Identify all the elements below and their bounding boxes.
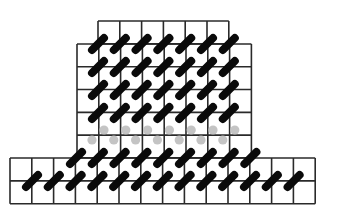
dimer-marker bbox=[266, 175, 278, 187]
dimer-marker bbox=[92, 61, 104, 73]
dimer-marker bbox=[179, 61, 191, 73]
dimer-marker bbox=[201, 38, 213, 50]
dimer-marker bbox=[114, 152, 126, 164]
dimer-marker bbox=[157, 152, 169, 164]
dimer-marker bbox=[114, 84, 126, 96]
dimer-marker bbox=[136, 38, 148, 50]
dimer-marker bbox=[201, 107, 213, 119]
dimer-marker bbox=[157, 61, 169, 73]
faded-dimer-dot bbox=[165, 125, 174, 134]
faded-dimer-dot bbox=[153, 135, 162, 144]
dimer-marker bbox=[179, 175, 191, 187]
dimer-marker bbox=[92, 107, 104, 119]
faded-dimer-dot bbox=[99, 125, 108, 134]
faded-dimer-dot bbox=[121, 125, 130, 134]
dimer-marker bbox=[179, 38, 191, 50]
dimer-marker bbox=[157, 38, 169, 50]
dimer-marker bbox=[223, 61, 235, 73]
faded-dimer-dot bbox=[109, 135, 118, 144]
dimer-marker bbox=[135, 175, 147, 187]
dimer-marker bbox=[200, 175, 212, 187]
dimer-marker bbox=[92, 38, 104, 50]
dimer-marker bbox=[135, 152, 147, 164]
dimer-marker bbox=[244, 175, 256, 187]
dimer-marker bbox=[114, 107, 126, 119]
dimer-marker bbox=[70, 175, 82, 187]
dimer-marker bbox=[91, 175, 103, 187]
dimer-marker bbox=[136, 107, 148, 119]
dimer-marker bbox=[136, 84, 148, 96]
dimer-marker bbox=[113, 175, 125, 187]
dimer-marker bbox=[244, 152, 256, 164]
dimer-marker bbox=[136, 61, 148, 73]
dimer-marker bbox=[201, 152, 213, 164]
dimer-marker bbox=[114, 38, 126, 50]
dimer-marker bbox=[179, 84, 191, 96]
dimer-marker bbox=[223, 152, 235, 164]
dimer-marker bbox=[179, 107, 191, 119]
lattice-diagram bbox=[0, 0, 339, 215]
dimer-marker bbox=[157, 84, 169, 96]
faded-dimer-dot bbox=[87, 135, 96, 144]
faded-dimer-dot bbox=[230, 125, 239, 134]
dimer-marker bbox=[201, 84, 213, 96]
dimer-marker bbox=[179, 152, 191, 164]
dimer-marker bbox=[48, 175, 60, 187]
faded-dimer-dot bbox=[143, 125, 152, 134]
dimer-marker bbox=[201, 61, 213, 73]
dimer-marker bbox=[157, 175, 169, 187]
dimer-marker bbox=[26, 175, 38, 187]
dimer-marker bbox=[92, 152, 104, 164]
faded-dimer-dot bbox=[187, 125, 196, 134]
dimer-marker bbox=[288, 175, 300, 187]
dimer-marker bbox=[114, 61, 126, 73]
dimer-marker bbox=[223, 38, 235, 50]
faded-dimer-dot bbox=[208, 125, 217, 134]
dimer-marker bbox=[70, 152, 82, 164]
grid-diagram-canvas bbox=[0, 0, 339, 215]
dimer-marker bbox=[223, 84, 235, 96]
faded-dimer-dot bbox=[131, 135, 140, 144]
faded-dimer-dot bbox=[196, 135, 205, 144]
dimer-marker bbox=[223, 107, 235, 119]
dimer-marker bbox=[92, 84, 104, 96]
dimer-marker bbox=[157, 107, 169, 119]
faded-dimer-dot bbox=[175, 135, 184, 144]
faded-dimer-dot bbox=[218, 135, 227, 144]
dimer-marker bbox=[222, 175, 234, 187]
